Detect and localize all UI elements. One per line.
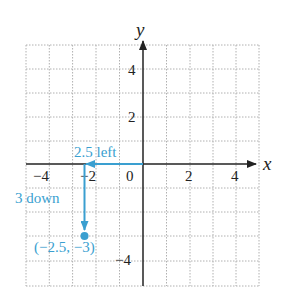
coordinate-plane: x y −4 −2 0 2 4 4 2 −4 2.5 left 3 down (… [0, 0, 295, 300]
tick-y-2: 2 [128, 109, 136, 125]
y-axis-label: y [134, 19, 145, 40]
x-axis-label: x [262, 153, 272, 174]
point-label: (−2.5, −3) [34, 239, 95, 256]
tick-y-neg4: −4 [115, 252, 131, 268]
x-tick-labels: −4 −2 0 2 4 [33, 168, 239, 184]
down-annotation: 3 down [15, 190, 60, 206]
tick-x-4: 4 [231, 168, 239, 184]
tick-origin: 0 [126, 168, 134, 184]
tick-x-2: 2 [185, 168, 193, 184]
left-annotation: 2.5 left [74, 144, 117, 160]
tick-x-neg2: −2 [80, 168, 96, 184]
tick-y-4: 4 [128, 62, 136, 78]
tick-x-neg4: −4 [33, 168, 49, 184]
